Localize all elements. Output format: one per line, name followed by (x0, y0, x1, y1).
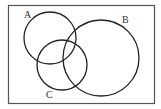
set-a-label: A (24, 9, 32, 20)
venn-svg: A B C (0, 0, 161, 109)
set-b-label: B (122, 14, 129, 25)
venn-diagram: A B C (0, 0, 161, 109)
set-c-label: C (46, 89, 53, 100)
